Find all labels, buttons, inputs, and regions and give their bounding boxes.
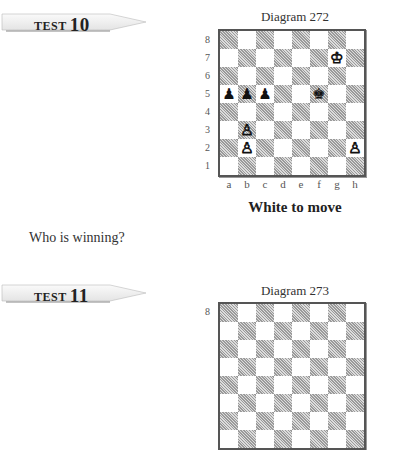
square-d4 bbox=[274, 376, 292, 394]
square-b8 bbox=[238, 304, 256, 322]
square-f3 bbox=[310, 121, 328, 139]
square-d2 bbox=[274, 139, 292, 157]
square-f8 bbox=[310, 31, 328, 49]
square-g4 bbox=[328, 103, 346, 121]
square-b8 bbox=[238, 31, 256, 49]
square-h3 bbox=[346, 121, 364, 139]
square-d5 bbox=[274, 85, 292, 103]
black-pawn-icon: ♟ bbox=[222, 87, 235, 102]
square-e8 bbox=[292, 31, 310, 49]
square-h7 bbox=[346, 49, 364, 67]
square-h1 bbox=[346, 430, 364, 448]
square-h3 bbox=[346, 394, 364, 412]
square-h8 bbox=[346, 31, 364, 49]
square-f2 bbox=[310, 139, 328, 157]
square-a8 bbox=[220, 31, 238, 49]
square-a3 bbox=[220, 394, 238, 412]
square-c5: ♟ bbox=[256, 85, 274, 103]
square-c5 bbox=[256, 358, 274, 376]
square-f7 bbox=[310, 322, 328, 340]
square-d4 bbox=[274, 103, 292, 121]
test-label: TEST11 bbox=[34, 284, 89, 306]
square-g5 bbox=[328, 85, 346, 103]
square-e7 bbox=[292, 322, 310, 340]
black-king-icon: ♚ bbox=[312, 87, 325, 102]
square-e4 bbox=[292, 103, 310, 121]
square-a5 bbox=[220, 358, 238, 376]
square-c2 bbox=[256, 412, 274, 430]
square-d7 bbox=[274, 322, 292, 340]
square-b6 bbox=[238, 340, 256, 358]
square-b4 bbox=[238, 376, 256, 394]
square-b6 bbox=[238, 67, 256, 85]
square-h4 bbox=[346, 103, 364, 121]
black-pawn-icon: ♟ bbox=[258, 87, 271, 102]
test-10-tag: TEST10 bbox=[0, 12, 148, 32]
square-c4 bbox=[256, 103, 274, 121]
square-a3 bbox=[220, 121, 238, 139]
square-h2: ♙ bbox=[346, 139, 364, 157]
square-d8 bbox=[274, 304, 292, 322]
square-f4 bbox=[310, 376, 328, 394]
square-b5: ♟ bbox=[238, 85, 256, 103]
square-c3 bbox=[256, 394, 274, 412]
square-f1 bbox=[310, 157, 328, 175]
square-e3 bbox=[292, 121, 310, 139]
square-a2 bbox=[220, 412, 238, 430]
square-c8 bbox=[256, 304, 274, 322]
square-b4 bbox=[238, 103, 256, 121]
square-h1 bbox=[346, 157, 364, 175]
square-h7 bbox=[346, 322, 364, 340]
square-d3 bbox=[274, 394, 292, 412]
white-king-icon: ♔ bbox=[330, 51, 343, 66]
white-pawn-icon: ♙ bbox=[240, 123, 253, 138]
square-b7 bbox=[238, 49, 256, 67]
rank-labels: 8 bbox=[205, 303, 210, 321]
square-g6 bbox=[328, 67, 346, 85]
chess-board: ♔♟♟♟♚♙♙♙ bbox=[218, 29, 366, 177]
square-b3 bbox=[238, 394, 256, 412]
square-c3 bbox=[256, 121, 274, 139]
square-g7: ♔ bbox=[328, 49, 346, 67]
square-f7 bbox=[310, 49, 328, 67]
square-f3 bbox=[310, 394, 328, 412]
square-g6 bbox=[328, 340, 346, 358]
square-d5 bbox=[274, 358, 292, 376]
square-b3: ♙ bbox=[238, 121, 256, 139]
square-e3 bbox=[292, 394, 310, 412]
square-e4 bbox=[292, 376, 310, 394]
square-a7 bbox=[220, 49, 238, 67]
square-b2 bbox=[238, 412, 256, 430]
square-b7 bbox=[238, 322, 256, 340]
square-d8 bbox=[274, 31, 292, 49]
square-c8 bbox=[256, 31, 274, 49]
square-g4 bbox=[328, 376, 346, 394]
square-b2: ♙ bbox=[238, 139, 256, 157]
chess-board bbox=[218, 302, 366, 450]
square-g2 bbox=[328, 139, 346, 157]
square-f2 bbox=[310, 412, 328, 430]
file-labels: ab cd ef gh bbox=[220, 178, 364, 190]
square-h8 bbox=[346, 304, 364, 322]
square-e1 bbox=[292, 157, 310, 175]
square-c6 bbox=[256, 340, 274, 358]
square-f5 bbox=[310, 358, 328, 376]
diagram-title: Diagram 272 bbox=[218, 9, 372, 25]
square-h5 bbox=[346, 358, 364, 376]
square-g1 bbox=[328, 157, 346, 175]
square-g7 bbox=[328, 322, 346, 340]
square-a4 bbox=[220, 103, 238, 121]
square-d1 bbox=[274, 430, 292, 448]
rank-labels: 87 65 43 21 bbox=[205, 31, 210, 175]
square-a5: ♟ bbox=[220, 85, 238, 103]
square-f1 bbox=[310, 430, 328, 448]
square-e1 bbox=[292, 430, 310, 448]
square-d1 bbox=[274, 157, 292, 175]
square-f8 bbox=[310, 304, 328, 322]
square-e6 bbox=[292, 67, 310, 85]
square-g5 bbox=[328, 358, 346, 376]
side-to-move-caption: White to move bbox=[218, 199, 372, 216]
square-f5: ♚ bbox=[310, 85, 328, 103]
square-g3 bbox=[328, 121, 346, 139]
square-e8 bbox=[292, 304, 310, 322]
